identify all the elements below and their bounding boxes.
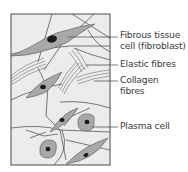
label-plasma-cell: Plasma cell xyxy=(120,121,170,132)
label-fibroblast-line1: Fibrous tissue xyxy=(120,30,186,41)
connective-tissue-diagram: Fibrous tissue cell (fibroblast) Elastic… xyxy=(0,0,188,172)
label-elastic-line1: Elastic fibres xyxy=(120,59,176,70)
label-plasma-line1: Plasma cell xyxy=(120,121,170,132)
tissue-illustration xyxy=(0,0,188,172)
label-collagen-line2: fibres xyxy=(120,86,158,97)
label-collagen-line1: Collagen xyxy=(120,75,158,86)
label-fibroblast: Fibrous tissue cell (fibroblast) xyxy=(120,30,186,51)
label-collagen-fibres: Collagen fibres xyxy=(120,75,158,96)
label-fibroblast-line2: cell (fibroblast) xyxy=(120,41,186,52)
label-elastic-fibres: Elastic fibres xyxy=(120,59,176,70)
